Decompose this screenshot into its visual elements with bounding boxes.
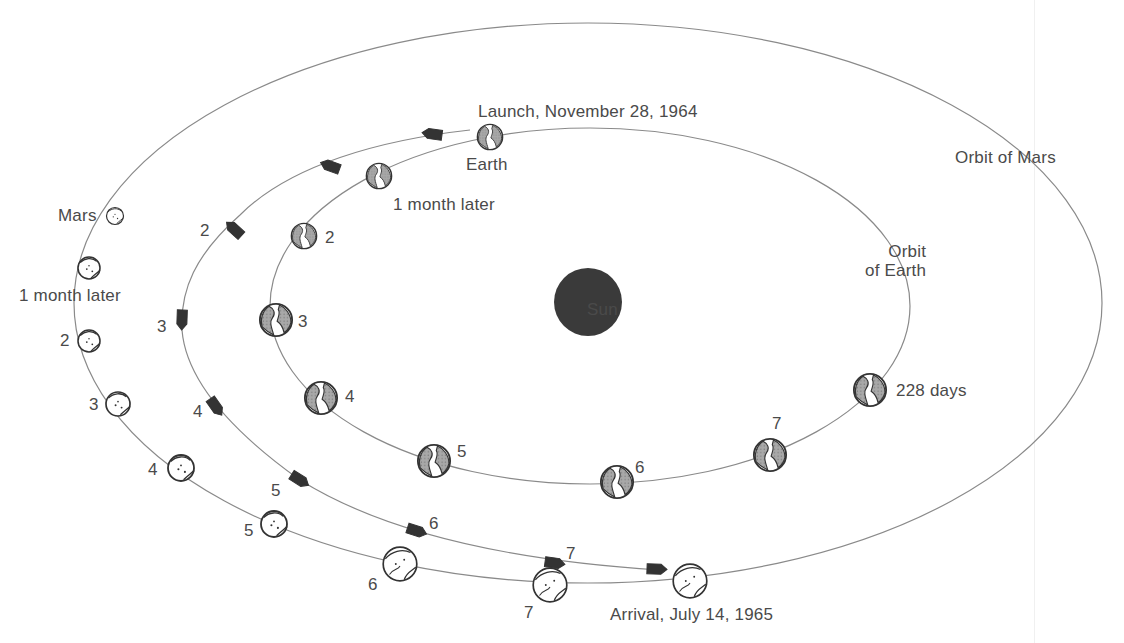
mars-position-label: 7 — [524, 604, 534, 621]
launch-label: Launch, November 28, 1964 — [478, 103, 698, 120]
earth-position-label: 5 — [457, 443, 467, 460]
earth-position-label: 4 — [345, 388, 355, 405]
spacecraft-icon — [206, 396, 226, 418]
earth-position-label: 6 — [635, 459, 645, 476]
earth-icon — [477, 124, 502, 149]
mars-icon — [78, 330, 100, 352]
mars-icon — [107, 208, 124, 225]
mars-orbit-label: Orbit of Mars — [955, 149, 1056, 166]
mars-position-label: 2 — [60, 332, 70, 349]
earth-icon — [291, 223, 316, 248]
mars-position-label: 6 — [368, 576, 378, 593]
sun-label: Sun — [587, 301, 618, 318]
spacecraft-position-label: 6 — [429, 515, 439, 532]
spacecraft-icon — [544, 557, 565, 570]
orbit-diagram — [0, 0, 1124, 643]
mars-label: Mars — [58, 207, 97, 224]
mars-icon — [106, 392, 130, 416]
spacecraft-icon — [406, 523, 428, 539]
earth-position-label: 3 — [298, 313, 308, 330]
earth-icon — [260, 304, 292, 336]
earth-icon — [366, 163, 391, 188]
spacecraft-position-label: 7 — [566, 545, 576, 562]
mars-icon — [78, 257, 100, 279]
mars-position-label: 3 — [89, 396, 99, 413]
mars-icon — [261, 511, 287, 537]
spacecraft-icon — [421, 128, 442, 141]
spacecraft-icon — [223, 219, 245, 240]
earth-orbit-label: Orbit of Earth — [865, 243, 926, 279]
earth-icon — [754, 439, 786, 471]
earth-orbit-label-line1: Orbit — [865, 243, 926, 260]
spacecraft-icon — [319, 158, 341, 174]
arrival-label: Arrival, July 14, 1965 — [610, 606, 773, 623]
earth-position-label: 7 — [772, 415, 782, 432]
mars-icon — [168, 455, 194, 481]
earth-icon — [305, 382, 337, 414]
mars-position-label: 1 month later — [19, 287, 121, 304]
spacecraft-icon — [647, 564, 667, 575]
earth-label: Earth — [466, 156, 508, 173]
spacecraft-position-label: 4 — [193, 403, 203, 420]
mars-icon — [673, 564, 707, 598]
mars-icon — [383, 547, 417, 581]
mars-icon — [533, 568, 567, 602]
spacecraft-position-label: 3 — [157, 318, 167, 335]
spacecraft-position-label: 5 — [271, 482, 281, 499]
spacecraft-icon — [289, 470, 311, 489]
earth-position-label: 2 — [325, 229, 335, 246]
spacecraft-position-label: 2 — [200, 222, 210, 239]
earth-position-label: 228 days — [896, 382, 967, 399]
mars-position-label: 5 — [244, 522, 254, 539]
earth-position-label: 1 month later — [393, 196, 495, 213]
earth-icon — [418, 445, 450, 477]
earth-icon — [601, 466, 633, 498]
earth-icon — [854, 374, 886, 406]
mars-position-label: 4 — [148, 461, 158, 478]
spacecraft-icon — [177, 310, 188, 330]
earth-orbit-label-line2: of Earth — [865, 262, 926, 279]
